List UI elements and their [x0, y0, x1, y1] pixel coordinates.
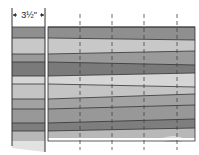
arrowhead-left-icon — [13, 13, 16, 17]
dimension-label: 3½" — [18, 10, 40, 20]
left-stripe — [12, 99, 45, 110]
diagram-canvas — [0, 0, 199, 155]
left-stripe — [12, 38, 45, 55]
left-stripe — [12, 123, 45, 132]
white-wave-mask — [48, 138, 195, 150]
left-stripe — [12, 84, 45, 100]
left-stripe — [12, 109, 45, 124]
left-stripe — [12, 62, 45, 77]
left-stripe — [12, 76, 45, 85]
stratified-wall-diagram: 3½" — [0, 0, 199, 155]
arrowhead-right-icon — [41, 13, 44, 17]
left-base — [12, 141, 45, 152]
left-stripe — [12, 131, 45, 142]
left-stripe — [12, 54, 45, 63]
left-stripe — [12, 27, 45, 39]
